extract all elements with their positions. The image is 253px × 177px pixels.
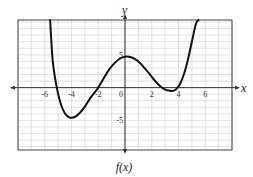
x-tick-label: 6 bbox=[203, 90, 207, 99]
x-axis-arrow-left bbox=[10, 86, 15, 90]
x-axis-label: x bbox=[240, 81, 247, 95]
function-graph: -6-4-20246 5-5 x y f(x) bbox=[0, 0, 253, 177]
x-axis-arrow-right bbox=[235, 86, 240, 90]
x-tick-label: 0 bbox=[119, 90, 123, 99]
x-tick-label: -6 bbox=[41, 90, 48, 99]
x-tick-label: -4 bbox=[68, 90, 75, 99]
x-tick-label: 4 bbox=[177, 90, 181, 99]
function-curve bbox=[50, 20, 198, 118]
x-tick-label: 2 bbox=[150, 90, 154, 99]
y-tick-label: -5 bbox=[116, 116, 123, 125]
function-caption: f(x) bbox=[116, 160, 133, 174]
y-tick-labels: 5-5 bbox=[116, 51, 123, 126]
y-axis-label: y bbox=[121, 3, 128, 17]
y-axis-arrow-down bbox=[123, 149, 127, 154]
